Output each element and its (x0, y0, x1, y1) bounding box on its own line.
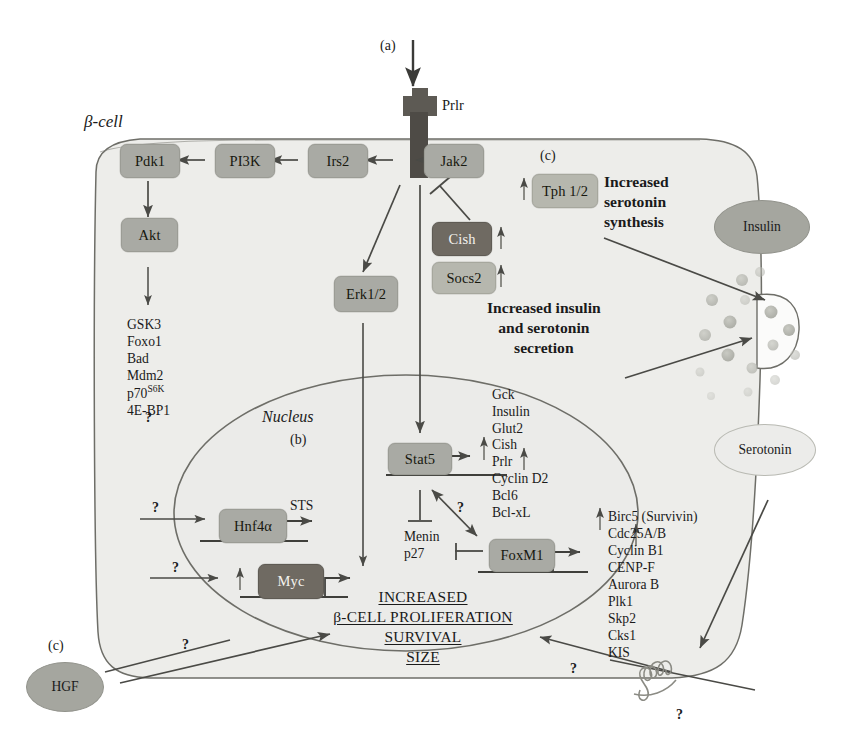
akt-target-p70: p70S6K (127, 384, 170, 402)
annotation-secretion: Increased insulin and serotonin secretio… (487, 298, 601, 358)
akt-target-foxo1: Foxo1 (127, 333, 170, 350)
node-jak2[interactable]: Jak2 (424, 144, 484, 178)
node-socs2[interactable]: Socs2 (432, 262, 496, 294)
akt-target-list: GSK3 Foxo1 Bad Mdm2 p70S6K 4E-BP1 (127, 316, 170, 419)
foxm1-target-list: Birc5 (Survivin) Cdc25A/B Cyclin B1 CENP… (608, 508, 697, 661)
inhibitor-p27: p27 (404, 545, 440, 562)
stat5-target-list-b: Cish Prlr Cyclin D2 Bcl6 Bcl-xL (492, 436, 548, 521)
foxm1-target-cdc25: Cdc25A/B (608, 525, 697, 542)
node-pi3k[interactable]: PI3K (215, 144, 275, 178)
node-erk[interactable]: Erk1/2 (334, 276, 398, 312)
stat5-target-list-a: Gck Insulin Glut2 (492, 386, 530, 437)
inhibitor-menin: Menin (404, 528, 440, 545)
figure-canvas: β-cell (a) Prlr Jak2 Irs2 PI3K Pdk1 Akt … (0, 0, 847, 749)
stat5-target-prlr: Prlr (492, 453, 548, 470)
outcome-line-2: β-CELL PROLIFERATION (333, 608, 513, 625)
outcome-text: INCREASED β-CELL PROLIFERATION SURVIVAL … (318, 587, 528, 667)
annotation-serotonin-synthesis: Increased serotonin synthesis (604, 172, 669, 232)
question-mark-hgf: ? (182, 637, 189, 653)
annotation-serotonin-synthesis-line3: synthesis (604, 212, 669, 232)
question-mark-stat5-foxm1: ? (457, 500, 464, 516)
stat5-target-cyclind2: Cyclin D2 (492, 470, 548, 487)
annotation-secretion-line1: Increased insulin (487, 298, 601, 318)
node-foxm1[interactable]: FoxM1 (489, 539, 555, 572)
question-mark-myc: ? (172, 560, 179, 576)
nucleus-label: Nucleus (262, 408, 314, 426)
stat5-target-bcl6: Bcl6 (492, 487, 548, 504)
question-mark-membrane: ? (570, 661, 577, 677)
panel-marker-a: (a) (380, 38, 396, 54)
prlr-label: Prlr (442, 97, 464, 113)
foxm1-target-cenpf: CENP-F (608, 559, 697, 576)
question-mark-gpcr: ? (676, 707, 683, 723)
foxm1-target-aurorab: Aurora B (608, 576, 697, 593)
foxm1-target-cyclinb1: Cyclin B1 (608, 542, 697, 559)
node-stat5[interactable]: Stat5 (388, 443, 452, 475)
stat5-target-cish: Cish (492, 436, 548, 453)
stat5-target-insulin: Insulin (492, 403, 530, 420)
node-tph[interactable]: Tph 1/2 (532, 174, 598, 208)
serotonin-oval: Serotonin (714, 424, 816, 476)
outcome-line-4: SIZE (406, 648, 440, 665)
foxm1-target-kis: KIS (608, 644, 697, 661)
akt-target-p70-base: p70 (127, 386, 147, 401)
node-cish[interactable]: Cish (432, 222, 492, 256)
panel-marker-b: (b) (290, 432, 306, 448)
hgf-oval: HGF (26, 662, 104, 712)
stat5-target-gck: Gck (492, 386, 530, 403)
inhibitor-list: Menin p27 (404, 528, 440, 562)
akt-target-bad: Bad (127, 350, 170, 367)
outcome-line-3: SURVIVAL (385, 628, 462, 645)
annotation-serotonin-synthesis-line1: Increased (604, 172, 669, 192)
node-irs2[interactable]: Irs2 (308, 144, 368, 178)
akt-target-mdm2: Mdm2 (127, 367, 170, 384)
stat5-target-glut2: Glut2 (492, 420, 530, 437)
node-hnf4a[interactable]: Hnf4α (219, 509, 287, 543)
annotation-serotonin-synthesis-line2: serotonin (604, 192, 669, 212)
panel-marker-c-bottom: (c) (48, 638, 64, 654)
annotation-secretion-line3: secretion (487, 338, 601, 358)
foxm1-target-plk1: Plk1 (608, 593, 697, 610)
stat5-target-bclxl: Bcl-xL (492, 504, 548, 521)
foxm1-target-cks1: Cks1 (608, 627, 697, 644)
question-mark-hnf4a: ? (152, 500, 159, 516)
beta-cell-label: β-cell (84, 112, 123, 131)
insulin-oval: Insulin (714, 200, 810, 254)
node-myc[interactable]: Myc (258, 564, 324, 599)
outcome-line-1: INCREASED (378, 588, 467, 605)
panel-marker-c-top: (c) (540, 148, 556, 164)
question-mark-akt: ? (145, 410, 152, 426)
node-pdk1[interactable]: Pdk1 (120, 144, 180, 178)
akt-target-p70-superscript: S6K (147, 384, 164, 394)
node-akt[interactable]: Akt (121, 218, 178, 252)
akt-target-gsk3: GSK3 (127, 316, 170, 333)
foxm1-target-skp2: Skp2 (608, 610, 697, 627)
annotation-secretion-line2: and serotonin (487, 318, 601, 338)
hnf4a-target-sts: STS (290, 498, 313, 513)
foxm1-target-birc5: Birc5 (Survivin) (608, 508, 697, 525)
